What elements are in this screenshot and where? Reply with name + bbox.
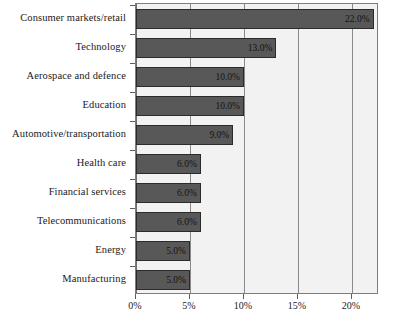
bar-aerospace-and-defence: 10.0% [136, 67, 244, 87]
x-tick-label: 10% [234, 300, 252, 311]
y-tick [130, 208, 135, 209]
x-tick-mark [189, 294, 190, 299]
x-tick-mark [135, 294, 136, 299]
y-tick [130, 237, 135, 238]
bar-health-care: 6.0% [136, 154, 201, 174]
bar-value-label: 22.0% [345, 10, 370, 28]
x-tick-mark [243, 294, 244, 299]
category-axis: Consumer markets/retail Technology Aeros… [0, 3, 131, 294]
y-tick [130, 5, 135, 6]
category-label: Telecommunications [37, 211, 126, 231]
category-label: Health care [77, 153, 126, 173]
y-tick [130, 266, 135, 267]
x-tick-label: 20% [342, 300, 360, 311]
bar-telecommunications: 6.0% [136, 212, 201, 232]
bar-value-label: 6.0% [177, 184, 197, 202]
y-tick [130, 63, 135, 64]
bar-value-label: 5.0% [166, 242, 186, 260]
bar-technology: 13.0% [136, 38, 276, 58]
x-tick-mark [297, 294, 298, 299]
x-tick-label: 0% [128, 300, 141, 311]
bar-value-label: 6.0% [177, 155, 197, 173]
category-label: Energy [95, 240, 126, 260]
bar-consumer-markets-retail: 22.0% [136, 9, 374, 29]
x-tick-label: 15% [288, 300, 306, 311]
bar-value-label: 10.0% [215, 97, 240, 115]
bar-value-label: 9.0% [209, 126, 229, 144]
bar-value-label: 6.0% [177, 213, 197, 231]
category-label: Manufacturing [62, 269, 126, 289]
y-axis-ticks [135, 3, 136, 294]
y-tick [130, 179, 135, 180]
bar-education: 10.0% [136, 96, 244, 116]
y-tick [130, 92, 135, 93]
category-label: Aerospace and defence [27, 66, 126, 86]
bars-layer: 22.0% 13.0% 10.0% 10.0% 9.0% 6.0% 6.0% 6… [136, 4, 377, 293]
y-tick [130, 150, 135, 151]
y-tick [130, 121, 135, 122]
plot-area: 22.0% 13.0% 10.0% 10.0% 9.0% 6.0% 6.0% 6… [135, 3, 378, 294]
x-tick-mark [351, 294, 352, 299]
category-label: Consumer markets/retail [20, 8, 126, 28]
bar-value-label: 5.0% [166, 271, 186, 289]
bar-financial-services: 6.0% [136, 183, 201, 203]
bar-automotive-transportation: 9.0% [136, 125, 233, 145]
category-label: Technology [76, 37, 126, 57]
category-label: Financial services [49, 182, 126, 202]
bar-value-label: 13.0% [248, 39, 273, 57]
x-tick-label: 5% [182, 300, 195, 311]
x-axis: 0% 5% 10% 15% 20% [135, 294, 378, 333]
category-label: Automotive/transportation [12, 124, 126, 144]
category-label: Education [83, 95, 126, 115]
bar-energy: 5.0% [136, 241, 190, 261]
bar-manufacturing: 5.0% [136, 270, 190, 290]
bar-chart-figure: Consumer markets/retail Technology Aeros… [0, 0, 393, 333]
y-tick [130, 34, 135, 35]
bar-value-label: 10.0% [215, 68, 240, 86]
